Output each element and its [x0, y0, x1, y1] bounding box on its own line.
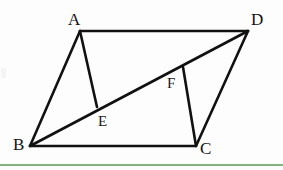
segment-BD-diagonal	[30, 31, 248, 146]
green-baseline-rule	[0, 164, 283, 166]
geometry-canvas	[0, 0, 283, 170]
scan-artifact-mark	[1, 68, 6, 78]
segment-FC	[183, 67, 196, 146]
segment-DC	[196, 31, 248, 146]
segment-AB	[30, 31, 80, 146]
vertex-label-d: D	[251, 11, 263, 28]
vertex-label-a: A	[68, 11, 80, 28]
vertex-label-b: B	[13, 136, 24, 153]
point-label-e: E	[98, 114, 107, 129]
geometry-figure: A D B C E F	[0, 0, 283, 170]
segment-AE	[80, 31, 97, 107]
point-label-f: F	[167, 76, 175, 91]
vertex-label-c: C	[200, 140, 211, 157]
